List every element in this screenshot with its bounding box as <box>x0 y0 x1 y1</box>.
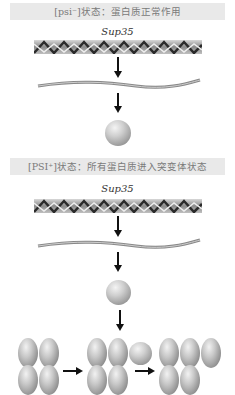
prion-aggregate-2-bottom-left <box>87 365 107 395</box>
arrowhead-top-2 <box>114 106 122 113</box>
prion-state-title: [PSI⁺]状态：所有蛋白质进入突变体状态 <box>28 161 207 172</box>
arrow-down-translation-top <box>117 93 119 107</box>
joining-monomer-sphere <box>129 342 152 365</box>
arrowhead-bottom-3 <box>116 324 124 331</box>
arrow-down-translation-bottom <box>117 252 119 266</box>
arrowhead-bottom-1 <box>114 230 122 237</box>
dna-double-helix-top <box>34 40 202 54</box>
prion-aggregate-3-bottom-2 <box>180 365 200 395</box>
prion-aggregate-3-bottom-1 <box>159 365 179 395</box>
arrow-down-transcription-top <box>117 57 119 72</box>
arrow-right-1 <box>63 370 77 372</box>
mrna-strand-top <box>36 78 202 90</box>
arrowhead-right-1 <box>76 367 83 375</box>
arrowhead-right-2 <box>148 367 155 375</box>
prion-aggregate-3-top-3 <box>201 338 221 368</box>
prion-state-banner: [PSI⁺]状态：所有蛋白质进入突变体状态 <box>10 158 225 175</box>
prion-aggregate-2-bottom-right <box>108 365 128 395</box>
mrna-strand-bottom <box>36 238 202 250</box>
arrow-down-transcription-bottom <box>117 216 119 231</box>
normal-protein-sphere <box>105 120 131 146</box>
prion-aggregate-1-top-left <box>18 338 38 368</box>
gene-label-sup35-top: Sup35 <box>0 26 235 37</box>
prion-aggregate-1-bottom-left <box>18 365 38 395</box>
prion-aggregate-3-top-2 <box>180 338 200 368</box>
normal-state-title: [psi⁻]状态：蛋白质正常作用 <box>54 6 180 17</box>
prion-aggregate-1-top-right <box>39 338 59 368</box>
normal-state-banner: [psi⁻]状态：蛋白质正常作用 <box>10 3 225 20</box>
prion-aggregate-2-top-right <box>108 338 128 368</box>
prion-aggregate-2-top-left <box>87 338 107 368</box>
arrowhead-top-1 <box>114 71 122 78</box>
gene-label-sup35-bottom: Sup35 <box>0 183 235 194</box>
arrow-right-2 <box>135 370 149 372</box>
prion-aggregate-3-top-1 <box>159 338 179 368</box>
dna-double-helix-bottom <box>34 199 202 213</box>
prion-aggregate-1-bottom-right <box>39 365 59 395</box>
monomer-protein-sphere <box>106 280 131 305</box>
arrow-down-aggregation <box>119 310 121 325</box>
arrowhead-bottom-2 <box>114 265 122 272</box>
